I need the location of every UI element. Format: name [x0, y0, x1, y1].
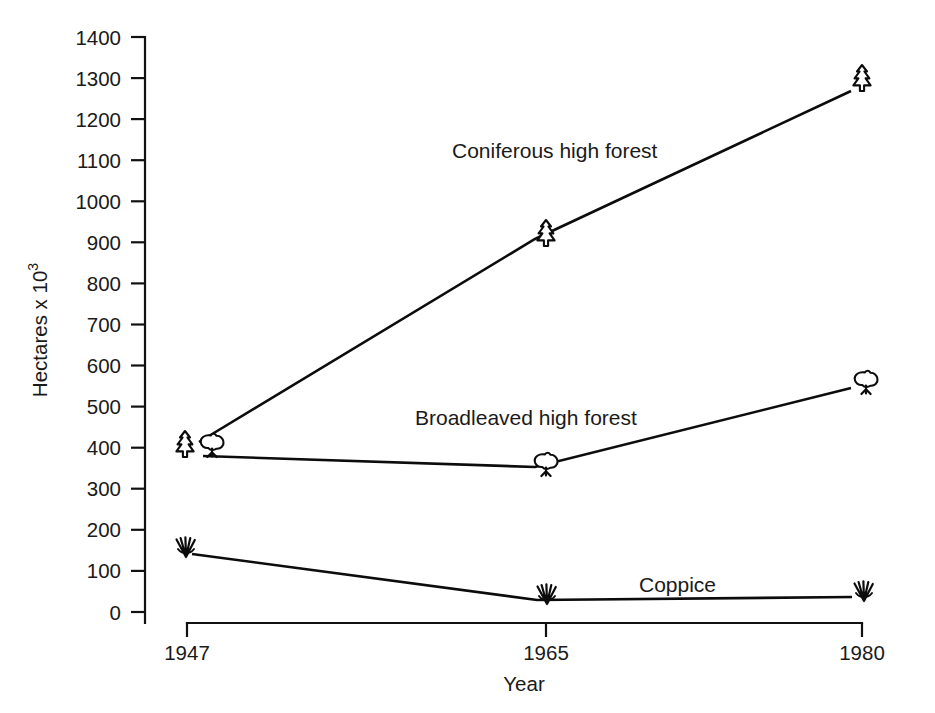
y-tick-label-600: 600: [87, 354, 121, 377]
marker-broadleaved-1965: [535, 453, 558, 476]
x-axis-title: Year: [503, 672, 545, 695]
y-tick-label-300: 300: [87, 477, 121, 500]
y-axis-title: Hectares x 103: [25, 263, 51, 397]
x-axis-tick-labels: 1947 1965 1980: [164, 641, 885, 664]
y-tick-label-1200: 1200: [75, 108, 121, 131]
y-tick-label-200: 200: [87, 518, 121, 541]
y-tick-label-0: 0: [110, 601, 121, 624]
x-tick-label-1965: 1965: [523, 641, 569, 664]
x-tick-label-1980: 1980: [839, 641, 885, 664]
y-tick-label-100: 100: [87, 559, 121, 582]
x-axis-ticks: [187, 623, 862, 637]
y-axis-ticks: [131, 37, 145, 612]
y-tick-label-800: 800: [87, 272, 121, 295]
y-tick-label-900: 900: [87, 231, 121, 254]
y-axis-title-group: Hectares x 103: [25, 263, 51, 397]
y-tick-label-700: 700: [87, 313, 121, 336]
y-tick-label-400: 400: [87, 436, 121, 459]
marker-coniferous-1980: [853, 65, 870, 91]
y-axis-tick-labels: 1400 1300 1200 1100 1000 900 800 700 600…: [75, 26, 121, 624]
x-axis: 1947 1965 1980 Year: [164, 623, 885, 695]
y-axis: 1400 1300 1200 1100 1000 900 800 700 600…: [75, 26, 145, 624]
marker-coniferous-1965: [537, 220, 554, 246]
marker-coppice-1980: [855, 581, 873, 601]
forest-area-line-chart: 1400 1300 1200 1100 1000 900 800 700 600…: [0, 0, 935, 713]
y-tick-label-1400: 1400: [75, 26, 121, 49]
y-tick-label-500: 500: [87, 395, 121, 418]
series-label-coniferous: Coniferous high forest: [452, 139, 658, 162]
y-tick-label-1100: 1100: [77, 149, 121, 172]
y-tick-label-1000: 1000: [75, 190, 121, 213]
chart-canvas: 1400 1300 1200 1100 1000 900 800 700 600…: [0, 0, 935, 713]
y-tick-label-1300: 1300: [75, 67, 121, 90]
marker-broadleaved-1947: [201, 434, 224, 457]
x-tick-label-1947: 1947: [164, 641, 210, 664]
y-axis-title-main: Hectares x 10: [28, 271, 51, 397]
y-axis-title-exponent: 3: [25, 263, 41, 271]
series-label-coppice: Coppice: [639, 573, 716, 596]
marker-coniferous-1947: [176, 431, 193, 457]
marker-broadleaved-1980: [855, 371, 878, 394]
series-label-broadleaved: Broadleaved high forest: [415, 406, 637, 429]
series-line-coppice: [192, 554, 852, 600]
